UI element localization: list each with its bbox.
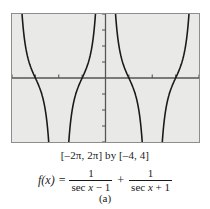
term-1-variable: x xyxy=(88,181,93,193)
function-formula: f(x) = 1 sec x − 1 + 1 sec x + 1 xyxy=(0,168,210,193)
formula-lhs: f(x) xyxy=(38,174,55,187)
graphing-calculator-figure: [–2π, 2π] by [–4, 4] f(x) = 1 sec x − 1 … xyxy=(0,0,210,209)
formula-operator: + xyxy=(115,174,126,187)
calculator-screen xyxy=(11,13,200,143)
formula-row: f(x) = 1 sec x − 1 + 1 sec x + 1 xyxy=(38,168,172,193)
formula-equals: = xyxy=(58,174,67,187)
term-1-numerator: 1 xyxy=(84,168,98,180)
axes-group xyxy=(12,14,199,142)
term-1-sec-label: sec xyxy=(71,181,85,193)
formula-term-2: 1 sec x + 1 xyxy=(129,168,172,193)
term-2-sec-label: sec xyxy=(131,181,145,193)
plot-svg xyxy=(12,14,199,142)
viewing-window-caption: [–2π, 2π] by [–4, 4] xyxy=(0,149,210,161)
formula-term-1: 1 sec x − 1 xyxy=(69,168,112,193)
term-2-variable: x xyxy=(148,181,153,193)
panel-label: (a) xyxy=(0,192,210,204)
term-2-numerator: 1 xyxy=(144,168,158,180)
term-2-operand: + 1 xyxy=(156,181,170,193)
term-1-operand: − 1 xyxy=(96,181,110,193)
